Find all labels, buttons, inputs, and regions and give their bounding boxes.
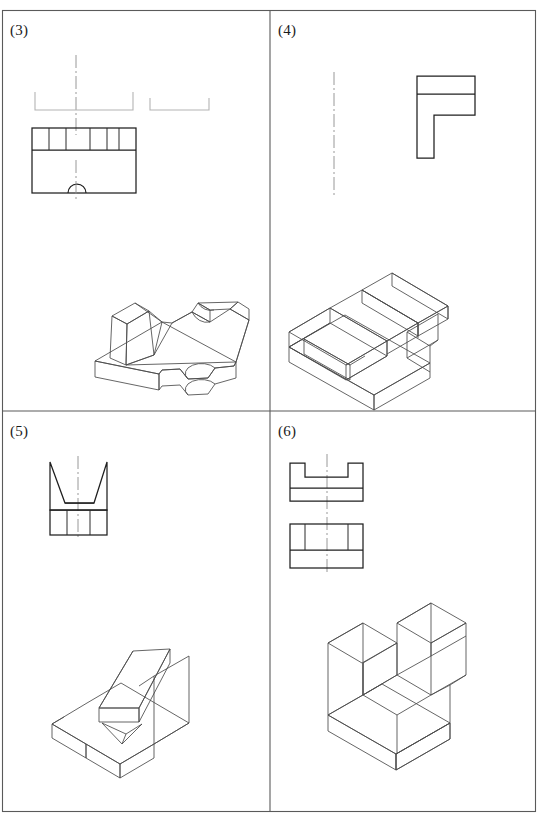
panel-5-isometric	[52, 649, 189, 778]
panel-3-isometric	[95, 302, 249, 395]
panel-3: (3)	[2, 10, 270, 411]
panel-5-base-outline	[50, 510, 107, 535]
drawing-sheet: (3)	[0, 0, 540, 815]
panel-3-top-bracket-right	[150, 98, 209, 110]
panel-4-f-profile	[417, 76, 475, 158]
panel-5: (5)	[2, 411, 270, 812]
panel-6-top-view-outline	[290, 524, 363, 568]
panel-4-drawing	[270, 10, 536, 411]
panel-3-top-bracket-left	[35, 92, 133, 110]
panel-4-isometric	[289, 273, 448, 410]
panel-6-front-view-u-notch	[290, 463, 363, 501]
panel-5-drawing	[2, 411, 270, 812]
panel-3-front-view-outline	[32, 128, 136, 193]
panel-4: (4)	[270, 10, 536, 411]
panel-3-semicircular-notch	[68, 184, 86, 193]
panel-6-drawing	[270, 411, 536, 812]
panel-6-isometric	[328, 603, 466, 770]
panel-6: (6)	[270, 411, 536, 812]
panel-3-drawing	[2, 10, 270, 411]
